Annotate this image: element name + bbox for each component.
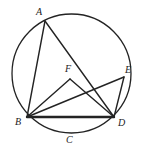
vertex-label-b: B [15,117,21,127]
segment-ed [114,77,124,117]
vertex-label-e: E [125,65,131,75]
chord-group [27,21,124,117]
vertex-label-f: F [65,64,71,74]
segment-ad [45,21,114,117]
geometry-canvas [0,0,148,150]
geometry-figure: A B C D E F [0,0,148,150]
vertex-label-d: D [118,118,125,128]
vertex-label-a: A [36,7,42,17]
arc-label-c: C [66,135,73,145]
segment-fd [70,79,114,117]
